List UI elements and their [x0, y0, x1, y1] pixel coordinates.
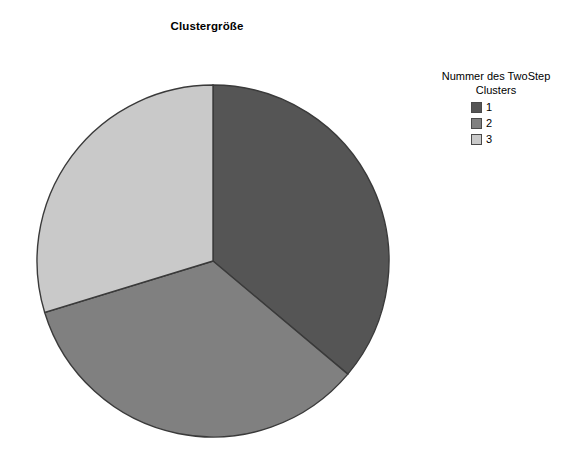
legend-label-1: 1 — [486, 102, 492, 113]
legend-items: 123 — [471, 100, 580, 148]
legend-swatch-icon-3 — [471, 134, 482, 145]
legend-title-line-2: Clusters — [420, 84, 572, 98]
legend-item-2[interactable]: 2 — [471, 116, 492, 131]
legend-title: Nummer des TwoStep Clusters — [420, 70, 572, 97]
pie-plot-area — [33, 68, 393, 456]
legend-swatch-icon-1 — [471, 102, 482, 113]
pie-svg — [33, 68, 393, 456]
legend-swatch-icon-2 — [471, 118, 482, 129]
pie-chart-figure: Clustergröße Nummer des TwoStep Clusters… — [0, 0, 587, 465]
chart-title: Clustergröße — [0, 19, 414, 33]
pie-slices-group — [37, 85, 389, 437]
legend-title-line-1: Nummer des TwoStep — [420, 70, 572, 84]
chart-legend: Nummer des TwoStep Clusters 123 — [420, 70, 580, 148]
legend-item-3[interactable]: 3 — [471, 132, 492, 147]
legend-item-1[interactable]: 1 — [471, 100, 492, 115]
legend-label-2: 2 — [486, 118, 492, 129]
legend-label-3: 3 — [486, 134, 492, 145]
